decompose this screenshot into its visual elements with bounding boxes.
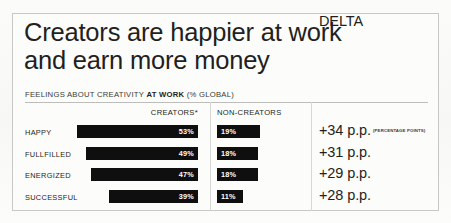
non-creators-bar: 18% [217, 147, 258, 160]
non-creators-bar-track: 18% [217, 168, 307, 181]
table-row: ENERGIZED47%18%+29 p.p. [13, 166, 438, 188]
delta-value: +28 p.p. [319, 187, 371, 203]
non-creators-bar: 18% [217, 168, 258, 181]
column-header-delta: DELTA [319, 13, 363, 29]
row-label: HAPPY [25, 128, 52, 137]
subtitle-emphasis: AT WORK [146, 90, 184, 99]
non-creators-value: 18% [221, 170, 236, 179]
creators-bar: 53% [77, 125, 198, 138]
delta-value: +34 p.p.(PERCENTAGE POINTS) [319, 122, 425, 138]
non-creators-bar: 19% [217, 125, 260, 138]
non-creators-bar-track: 18% [217, 147, 307, 160]
creators-value: 39% [179, 192, 194, 201]
delta-note: (PERCENTAGE POINTS) [373, 128, 425, 133]
delta-number: +31 p.p. [319, 144, 371, 160]
creators-bar-track: 47% [73, 168, 198, 181]
page-title: Creators are happier at work and earn mo… [24, 18, 428, 74]
creators-bar-track: 39% [73, 190, 198, 203]
creators-value: 47% [179, 170, 194, 179]
row-label: ENERGIZED [25, 171, 71, 180]
non-creators-value: 11% [221, 192, 236, 201]
delta-number: +29 p.p. [319, 165, 371, 181]
row-label: SUCCESSFUL [25, 193, 78, 202]
infographic-root: Creators are happier at work and earn mo… [0, 0, 451, 223]
non-creators-value: 19% [221, 127, 236, 136]
row-label: FULLFILLED [25, 150, 71, 159]
column-header-non-creators: NON-CREATORS [217, 108, 282, 117]
header-divider [25, 102, 428, 103]
delta-value: +29 p.p. [319, 165, 371, 181]
creators-bar: 47% [91, 168, 198, 181]
table-row: SUCCESSFUL39%11%+28 p.p. [13, 188, 438, 210]
subtitle-suffix: (% GLOBAL) [184, 90, 234, 99]
delta-value: +31 p.p. [319, 144, 371, 160]
creators-bar-track: 49% [73, 147, 198, 160]
chart-subtitle: FEELINGS ABOUT CREATIVITY AT WORK (% GLO… [25, 90, 234, 99]
delta-number: +34 p.p. [319, 122, 371, 138]
creators-value: 49% [179, 149, 194, 158]
subtitle-prefix: FEELINGS ABOUT CREATIVITY [25, 90, 146, 99]
non-creators-bar-track: 19% [217, 125, 307, 138]
title-line-2: and earn more money [24, 46, 428, 74]
non-creators-bar: 11% [217, 190, 243, 203]
creators-bar: 49% [86, 147, 198, 160]
table-row: FULLFILLED49%18%+31 p.p. [13, 145, 438, 167]
creators-bar-track: 53% [73, 125, 198, 138]
title-line-1: Creators are happier at work [24, 18, 428, 46]
table-row: HAPPY53%19%+34 p.p.(PERCENTAGE POINTS) [13, 123, 438, 145]
chart-frame: Creators are happier at work and earn mo… [12, 13, 439, 211]
delta-number: +28 p.p. [319, 187, 371, 203]
column-header-creators: CREATORS* [13, 108, 198, 117]
non-creators-value: 18% [221, 149, 236, 158]
creators-bar: 39% [109, 190, 198, 203]
creators-value: 53% [179, 127, 194, 136]
chart-rows: HAPPY53%19%+34 p.p.(PERCENTAGE POINTS)FU… [13, 123, 438, 209]
non-creators-bar-track: 11% [217, 190, 307, 203]
